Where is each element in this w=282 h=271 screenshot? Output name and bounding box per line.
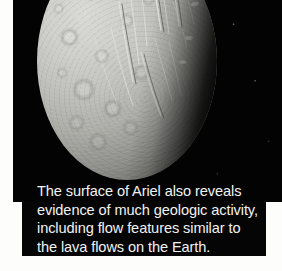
ariel-moon-image [37, 0, 217, 180]
caption-line-1: The surface of Ariel also reveals [37, 182, 241, 201]
figure-caption: The surface of Ariel also revealsevidenc… [22, 201, 266, 256]
caption-line-4: the lava flows on the Earth. [37, 239, 210, 255]
ariel-figure: The surface of Ariel also reveals The su… [0, 0, 282, 271]
caption-line-3: including flow features similar to [37, 220, 240, 236]
caption-body: The surface of Ariel also revealsevidenc… [37, 201, 266, 256]
caption-line-2: evidence of much geologic activity, [37, 202, 258, 218]
ariel-photograph-panel [13, 0, 282, 202]
